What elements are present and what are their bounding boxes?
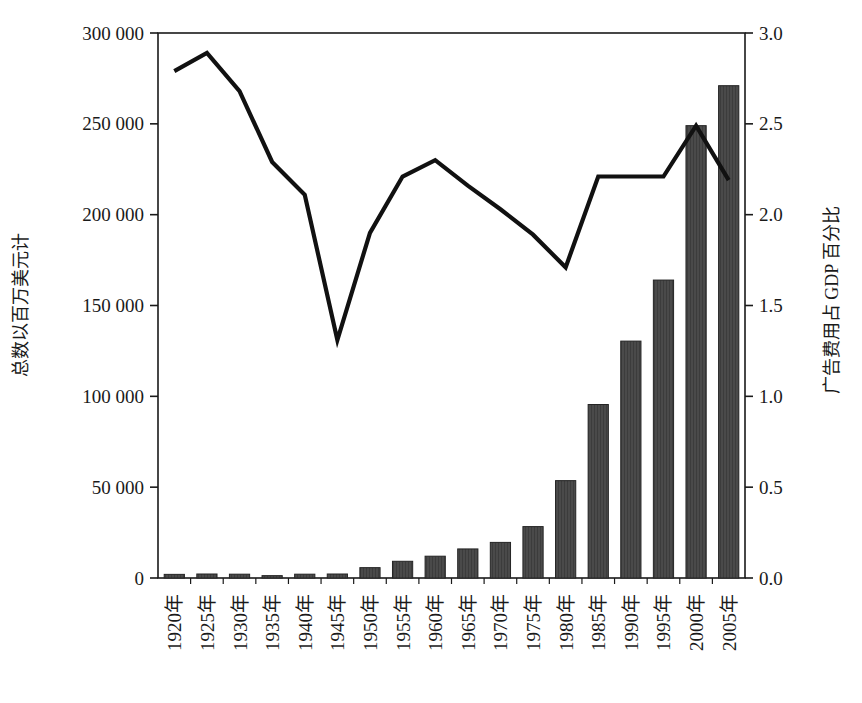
left-tick-label: 50 000 xyxy=(92,477,144,498)
category-label: 1950年 xyxy=(360,594,381,651)
left-tick-label: 100 000 xyxy=(82,386,144,407)
bar xyxy=(490,542,510,578)
bar xyxy=(295,574,315,578)
left-tick-label: 200 000 xyxy=(82,204,144,225)
bar xyxy=(360,568,380,578)
category-label: 1930年 xyxy=(230,594,251,651)
bar xyxy=(425,556,445,578)
category-label: 1960年 xyxy=(425,594,446,651)
left-tick-label: 300 000 xyxy=(82,23,144,44)
category-label: 1920年 xyxy=(164,594,185,651)
chart-container: 050 000100 000150 000200 000250 000300 0… xyxy=(0,0,862,703)
category-label: 1955年 xyxy=(393,594,414,651)
right-tick-label: 2.0 xyxy=(759,204,783,225)
category-label: 1995年 xyxy=(653,594,674,651)
bar xyxy=(686,126,706,578)
bar xyxy=(229,574,249,578)
right-tick-label: 0.5 xyxy=(759,477,783,498)
bar xyxy=(653,280,673,578)
bar xyxy=(327,574,347,578)
bar xyxy=(588,405,608,578)
category-label: 2005年 xyxy=(719,594,740,651)
category-label: 1975年 xyxy=(523,594,544,651)
left-axis-title: 总数以百万美元计 xyxy=(11,233,31,377)
bar xyxy=(164,574,184,578)
bar xyxy=(392,561,412,578)
bar xyxy=(458,549,478,578)
bar xyxy=(719,86,739,578)
left-tick-label: 150 000 xyxy=(82,295,144,316)
category-label: 1925年 xyxy=(197,594,218,651)
category-label: 2000年 xyxy=(686,594,707,651)
bar xyxy=(262,576,282,578)
bar xyxy=(621,341,641,578)
category-label: 1970年 xyxy=(490,594,511,651)
left-tick-label: 0 xyxy=(135,568,145,589)
category-label: 1990年 xyxy=(621,594,642,651)
right-tick-label: 3.0 xyxy=(759,23,783,44)
category-label: 1940年 xyxy=(295,594,316,651)
right-tick-label: 0.0 xyxy=(759,568,783,589)
category-label: 1985年 xyxy=(588,594,609,651)
category-label: 1965年 xyxy=(458,594,479,651)
right-tick-label: 2.5 xyxy=(759,113,783,134)
bar xyxy=(523,527,543,578)
right-tick-label: 1.0 xyxy=(759,386,783,407)
bar xyxy=(556,481,576,578)
category-label: 1945年 xyxy=(327,594,348,651)
left-tick-label: 250 000 xyxy=(82,113,144,134)
bar xyxy=(197,574,217,578)
right-tick-label: 1.5 xyxy=(759,295,783,316)
category-label: 1980年 xyxy=(556,594,577,651)
right-axis-title: 广告费用占 GDP 百分比 xyxy=(822,206,842,394)
chart-figure: 050 000100 000150 000200 000250 000300 0… xyxy=(0,0,862,703)
category-label: 1935年 xyxy=(262,594,283,651)
